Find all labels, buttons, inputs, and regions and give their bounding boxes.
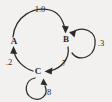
- edge-a-to-b-arrowhead: [62, 26, 69, 34]
- edge-label-b-to-c: .7: [60, 58, 66, 68]
- edge-label-a-to-b: 1.0: [35, 4, 46, 14]
- edge-label-c-to-a: .2: [6, 57, 12, 67]
- edge-c-to-a-path: [14, 52, 33, 71]
- edge-b-to-c-arrowhead: [45, 68, 53, 75]
- node-label-c: C: [35, 66, 42, 76]
- edge-b-self-loop: [69, 29, 95, 58]
- diagram-canvas: A B C 1.0 .3 .7 .8 .2: [0, 0, 112, 102]
- edge-label-c-self: .8: [45, 87, 51, 97]
- node-label-a: A: [11, 36, 18, 46]
- state-transition-diagram: A B C 1.0 .3 .7 .8 .2: [0, 0, 112, 102]
- edge-c-self-loop-arrowhead: [41, 79, 48, 86]
- edge-label-b-self: .3: [98, 38, 104, 48]
- edge-c-to-a: [10, 46, 33, 71]
- node-label-b: B: [63, 34, 69, 44]
- edge-b-self-loop-arrowhead: [69, 31, 76, 38]
- edge-c-to-a-arrowhead: [10, 46, 17, 54]
